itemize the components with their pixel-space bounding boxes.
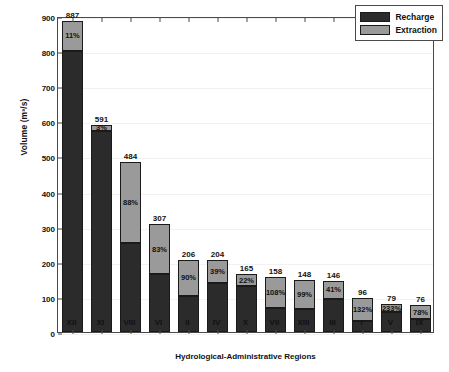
legend-label-recharge: Recharge xyxy=(395,12,434,22)
x-tick-mark xyxy=(159,330,160,334)
x-tick-mark-top xyxy=(101,18,102,22)
gridline xyxy=(58,229,433,230)
x-category-VII: VII xyxy=(270,318,280,327)
bar-percent-label: 132% xyxy=(352,305,372,314)
bar-percent-label: 78% xyxy=(410,308,430,317)
x-category-XI: XI xyxy=(97,318,105,327)
bar-percent-label: 90% xyxy=(178,273,198,282)
x-tick-mark xyxy=(188,330,189,334)
bar-total-label: 148 xyxy=(288,270,320,279)
y-tick-label: 600 xyxy=(42,119,55,128)
y-tick-label: 700 xyxy=(42,84,55,93)
legend-item-recharge: Recharge xyxy=(360,10,437,23)
x-tick-mark-top xyxy=(217,18,218,22)
bar-total-label: 96 xyxy=(346,288,378,297)
x-tick-mark-top xyxy=(188,18,189,22)
x-tick-mark xyxy=(246,330,247,334)
x-category-IV: IV xyxy=(213,318,221,327)
x-tick-mark-top xyxy=(333,18,334,22)
y-tick-label: 200 xyxy=(42,259,55,268)
bar-percent-label: 3% xyxy=(91,123,111,132)
bar-total-label: 165 xyxy=(230,264,262,273)
bar-segment-recharge xyxy=(62,51,82,332)
bar-XII[interactable]: 11%887 xyxy=(62,21,82,332)
bar-percent-label: 233% xyxy=(381,304,401,313)
bar-total-label: 158 xyxy=(259,267,291,276)
bar-total-label: 76 xyxy=(404,295,436,304)
x-tick-mark xyxy=(217,330,218,334)
x-tick-mark-top xyxy=(275,18,276,22)
x-tick-mark xyxy=(101,330,102,334)
x-category-IX: IX xyxy=(416,318,424,327)
y-tick-label: 300 xyxy=(42,224,55,233)
x-tick-mark xyxy=(333,330,334,334)
bar-percent-label: 108% xyxy=(265,288,285,297)
bar-percent-label: 41% xyxy=(323,285,343,294)
y-tick-label: 100 xyxy=(42,294,55,303)
gridline xyxy=(58,334,433,335)
bar-percent-label: 39% xyxy=(207,267,227,276)
bar-percent-label: 88% xyxy=(120,198,140,207)
y-tick-label: 500 xyxy=(42,154,55,163)
bar-percent-label: 11% xyxy=(62,31,82,40)
x-category-III: III xyxy=(329,318,336,327)
chart-legend: Recharge Extraction xyxy=(355,5,443,41)
x-category-VIII: VIII xyxy=(123,318,135,327)
x-category-I: I xyxy=(360,318,362,327)
bar-percent-label: 99% xyxy=(294,290,314,299)
x-tick-mark xyxy=(391,330,392,334)
bar-total-label: 307 xyxy=(143,214,175,223)
y-tick-mark xyxy=(58,334,62,335)
x-category-II: II xyxy=(185,318,189,327)
legend-label-extraction: Extraction xyxy=(395,25,437,35)
bar-total-label: 204 xyxy=(201,250,233,259)
x-category-XII: XII xyxy=(67,318,77,327)
x-tick-mark xyxy=(420,330,421,334)
x-tick-mark xyxy=(304,330,305,334)
y-axis-title: Volume (m³/s) xyxy=(19,67,29,187)
bar-segment-recharge xyxy=(91,131,111,332)
x-tick-mark-top xyxy=(304,18,305,22)
bar-percent-label: 83% xyxy=(149,245,169,254)
x-tick-mark-top xyxy=(246,18,247,22)
x-category-X: X xyxy=(243,318,248,327)
bar-total-label: 484 xyxy=(114,152,146,161)
x-tick-mark xyxy=(362,330,363,334)
y-tick-label: 800 xyxy=(42,49,55,58)
bar-total-label: 146 xyxy=(317,271,349,280)
bar-VI[interactable]: 83%307 xyxy=(149,224,169,332)
x-tick-mark xyxy=(72,330,73,334)
y-tick-label: 400 xyxy=(42,189,55,198)
bar-total-label: 79 xyxy=(375,294,407,303)
gridline xyxy=(58,194,433,195)
bar-total-label: 206 xyxy=(172,250,204,259)
bar-chart-figure: Volume (m³/s) Hydrological-Administrativ… xyxy=(0,0,449,372)
legend-item-extraction: Extraction xyxy=(360,23,437,36)
x-category-XIII: XIII xyxy=(297,318,309,327)
y-tick-label: 0 xyxy=(51,330,55,339)
gridline xyxy=(58,53,433,54)
y-tick-label: 900 xyxy=(42,14,55,23)
x-tick-mark-top xyxy=(159,18,160,22)
x-tick-mark xyxy=(130,330,131,334)
x-category-V: V xyxy=(388,318,393,327)
legend-swatch-extraction xyxy=(360,25,390,35)
x-tick-mark-top xyxy=(130,18,131,22)
legend-swatch-recharge xyxy=(360,12,390,22)
bar-XI[interactable]: 3%591 xyxy=(91,125,111,333)
bar-percent-label: 22% xyxy=(236,276,256,285)
x-tick-mark xyxy=(275,330,276,334)
x-tick-mark-top xyxy=(72,18,73,22)
x-category-VI: VI xyxy=(155,318,163,327)
plot-area: 0100200300400500600700800900 11%8873%591… xyxy=(57,17,434,333)
bar-total-label: 591 xyxy=(85,115,117,124)
x-axis-title: Hydrological-Administrative Regions xyxy=(57,352,434,361)
gridline xyxy=(58,88,433,89)
bar-VIII[interactable]: 88%484 xyxy=(120,162,140,332)
